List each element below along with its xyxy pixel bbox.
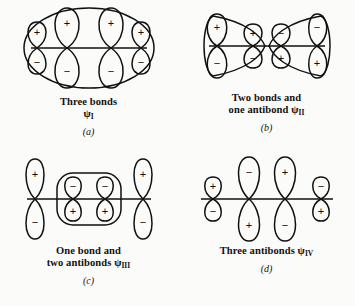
panel-c-caption-line2: two antibonds ψIII [0,257,177,272]
lobe-3-top [274,157,295,199]
panel-d-caption-line1: Three antibonds ψIV [178,245,355,260]
sign-4-bottom: − [139,216,145,228]
panel-b-label: (b) [178,122,355,133]
panel-b-caption-line1: Two bonds and [178,92,355,104]
orbital-diagram-c: + − − + − + + − [9,153,169,245]
sign-3-bottom: − [107,65,113,77]
orbital-panel-c: + − − + − + + − One bond and two antibon… [0,153,177,306]
sign-1-bottom: − [31,216,37,228]
sign-1-top: + [213,21,219,33]
sign-2-top: + [63,17,69,29]
orbital-diagram-d: + − − + + − − + [187,153,347,245]
panel-c-psi-subscript: III [121,261,130,270]
sign-1-top: + [209,180,215,192]
orbital-diagram-b: + − + − − + − + [187,0,347,92]
panel-b-psi-symbol: ψ [291,104,298,115]
lobe-2-top [238,157,259,199]
sign-1-top: + [33,26,39,38]
sign-3-top: − [101,180,107,192]
panel-a-psi-line: ψI [0,108,177,123]
sign-2-top: − [245,166,251,178]
panel-d-caption-text1: Three antibonds [220,245,295,256]
panel-a-caption: Three bonds ψI [0,96,177,123]
orbital-panel-a: + − + − + − + − Three bonds ψI (a) [0,0,177,153]
panel-a-caption-line1: Three bonds [0,96,177,108]
panel-a-label: (a) [0,126,177,137]
sign-2-bottom: + [69,205,75,217]
panel-b-caption: Two bonds and one antibond ψII [178,92,355,119]
sign-4-bottom: − [137,56,143,68]
panel-d-label: (d) [178,263,355,274]
sign-2-bottom: + [245,219,251,231]
sign-1-bottom: − [209,205,215,217]
panel-c-label: (c) [0,275,177,286]
sign-4-top: + [139,168,145,180]
panel-d-psi-symbol: ψ [298,245,305,256]
sign-1-top: + [31,168,37,180]
panel-c-caption-line1: One bond and [0,245,177,257]
sign-3-top: + [107,17,113,29]
panel-a-psi-subscript: I [91,112,94,121]
sign-4-top: − [317,180,323,192]
panel-d-caption: Three antibonds ψIV [178,245,355,260]
sign-2-bottom: − [63,65,69,77]
panel-c-caption: One bond and two antibonds ψIII [0,245,177,272]
sign-2-bottom: − [249,52,255,64]
sign-4-bottom: + [313,57,319,69]
sign-4-bottom: + [317,205,323,217]
sign-2-top: + [249,27,255,39]
sign-4-top: − [313,21,319,33]
orbital-panel-b: + − + − − + − + Two bonds and one antibo… [178,0,355,153]
molecular-orbital-figure: + − + − + − + − Three bonds ψI (a) [0,0,355,306]
panel-a-psi-symbol: ψ [83,108,90,119]
sign-3-bottom: − [281,219,287,231]
sign-3-top: + [281,166,287,178]
orbital-panel-d: + − − + + − − + Three antibonds ψIV (d) [178,153,355,306]
sign-3-bottom: + [101,205,107,217]
panel-c-caption-text2: two antibonds [47,257,112,268]
orbital-diagram-a: + − + − + − + − [9,0,169,96]
sign-1-bottom: − [213,57,219,69]
sign-3-top: − [277,27,283,39]
panel-b-caption-line2: one antibond ψII [178,104,355,119]
sign-2-top: − [69,180,75,192]
panel-b-caption-text2: one antibond [229,104,289,115]
panel-d-psi-subscript: IV [305,249,313,258]
panel-b-psi-subscript: II [299,108,305,117]
sign-4-top: + [137,26,143,38]
sign-1-bottom: − [33,56,39,68]
sign-3-bottom: + [277,52,283,64]
